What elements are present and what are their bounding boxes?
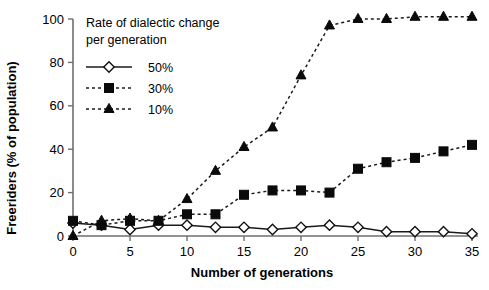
legend-label: 50%	[148, 61, 173, 75]
data-point-diamond	[267, 224, 277, 234]
chart-figure: 020406080100 05101520253035 Freeriders (…	[0, 0, 489, 290]
legend-label: 30%	[148, 82, 173, 96]
data-point-diamond	[296, 222, 306, 232]
data-point-diamond	[467, 229, 477, 239]
legend-entries: 50%30%10%	[86, 61, 173, 117]
data-point-square	[468, 140, 477, 149]
data-point-triangle	[239, 141, 249, 150]
line-chart: 020406080100 05101520253035 Freeriders (…	[0, 0, 489, 290]
data-point-diamond	[182, 220, 192, 230]
data-point-square	[240, 190, 249, 199]
data-point-square	[325, 188, 334, 197]
x-axis-title: Number of generations	[191, 265, 333, 280]
data-point-triangle	[353, 13, 363, 22]
data-point-square	[439, 147, 448, 156]
data-point-triangle	[296, 70, 306, 79]
data-point-triangle	[325, 20, 335, 29]
data-point-square	[105, 84, 114, 93]
data-point-triangle	[467, 11, 477, 20]
x-tick-label: 5	[126, 244, 133, 259]
data-point-square	[382, 158, 391, 167]
data-point-triangle	[268, 122, 278, 131]
data-point-diamond	[324, 220, 334, 230]
x-tick-label: 30	[408, 244, 422, 259]
y-tick-label: 100	[42, 12, 64, 27]
x-tick-label: 25	[351, 244, 365, 259]
y-axis-title: Freeriders (% of population)	[4, 61, 19, 234]
y-tick-label: 60	[50, 98, 64, 113]
data-point-diamond	[353, 222, 363, 232]
data-point-triangle	[439, 11, 449, 20]
legend-item-30pct: 30%	[86, 82, 173, 96]
legend-item-10pct: 10%	[86, 103, 173, 117]
data-point-triangle	[211, 165, 221, 174]
data-point-triangle	[382, 13, 392, 22]
y-tick-label: 0	[57, 229, 64, 244]
y-tick-label: 80	[50, 55, 64, 70]
x-tick-label: 35	[465, 244, 479, 259]
data-point-square	[411, 153, 420, 162]
data-point-square	[354, 164, 363, 173]
x-tick-label: 20	[294, 244, 308, 259]
x-tick-label: 0	[69, 244, 76, 259]
data-point-square	[183, 210, 192, 219]
x-axis-tick-labels: 05101520253035	[69, 244, 479, 259]
data-point-square	[297, 186, 306, 195]
data-point-triangle	[104, 103, 114, 112]
legend-item-50pct: 50%	[86, 61, 173, 75]
data-point-square	[211, 210, 220, 219]
legend-title-line2: per generation	[86, 33, 167, 47]
data-point-triangle	[410, 11, 420, 20]
y-tick-label: 40	[50, 142, 64, 157]
legend-title-line1: Rate of dialectic change	[86, 16, 219, 30]
data-point-diamond	[125, 224, 135, 234]
data-point-square	[268, 186, 277, 195]
legend-label: 10%	[148, 103, 173, 117]
data-point-diamond	[210, 222, 220, 232]
data-point-square	[69, 216, 78, 225]
data-point-diamond	[239, 222, 249, 232]
data-point-triangle	[97, 215, 107, 224]
data-point-triangle	[68, 230, 78, 239]
y-tick-label: 20	[50, 185, 64, 200]
data-point-diamond	[104, 62, 114, 72]
x-tick-label: 15	[237, 244, 251, 259]
chart-legend: Rate of dialectic change per generation …	[86, 16, 219, 117]
data-point-triangle	[182, 193, 192, 202]
y-axis-tick-labels: 020406080100	[42, 12, 64, 244]
x-tick-label: 10	[180, 244, 194, 259]
